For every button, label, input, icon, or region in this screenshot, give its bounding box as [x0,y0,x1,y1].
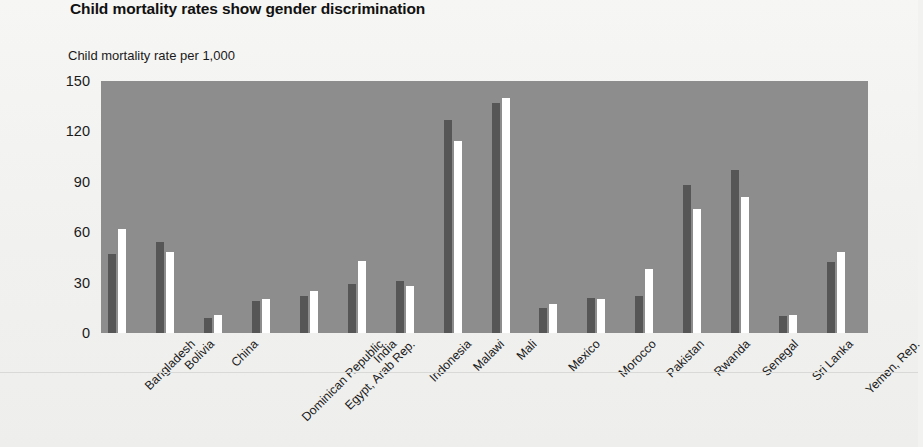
bar-series-layer [101,81,868,333]
bar-group[interactable] [437,81,485,333]
bar-female[interactable] [789,315,797,333]
bar-group[interactable] [389,81,437,333]
bar-female[interactable] [406,286,414,333]
bar-male[interactable] [779,316,787,333]
bar-female[interactable] [118,229,126,333]
bar-female[interactable] [597,299,605,333]
bar-male[interactable] [635,296,643,333]
bar-male[interactable] [827,262,835,333]
bar-male[interactable] [252,301,260,333]
bar-male[interactable] [492,103,500,333]
bar-group[interactable] [485,81,533,333]
bar-female[interactable] [645,269,653,333]
bar-male[interactable] [539,308,547,333]
bar-group[interactable] [580,81,628,333]
x-axis-tick-label: Indonesia [426,337,474,385]
bar-group[interactable] [628,81,676,333]
y-axis-tick-label: 0 [82,325,90,341]
x-axis-tick-label: Mexico [566,337,603,374]
bar-female[interactable] [310,291,318,333]
page-rule [0,372,918,373]
bar-male[interactable] [396,281,404,333]
bar-group[interactable] [676,81,724,333]
bar-female[interactable] [262,299,270,333]
bar-female[interactable] [166,252,174,333]
x-axis-tick-label: Mali [513,337,539,363]
bar-male[interactable] [156,242,164,333]
bar-group[interactable] [149,81,197,333]
bar-female[interactable] [358,261,366,333]
x-axis: BangladeshBoliviaChinaDominican Republic… [101,333,868,443]
y-axis-tick-label: 150 [66,73,90,89]
y-axis-tick-label: 120 [66,123,90,139]
bar-group[interactable] [197,81,245,333]
bar-group[interactable] [293,81,341,333]
bar-group[interactable] [245,81,293,333]
bar-male[interactable] [300,296,308,333]
x-axis-tick-label: China [228,337,261,370]
plot-region [101,81,868,333]
y-axis-tick-label: 60 [74,224,90,240]
bar-female[interactable] [741,197,749,333]
bar-female[interactable] [549,304,557,333]
bar-male[interactable] [731,170,739,333]
y-axis: 0306090120150 [0,81,96,333]
bar-male[interactable] [204,318,212,333]
bar-female[interactable] [837,252,845,333]
bar-male[interactable] [444,120,452,333]
y-axis-tick-label: 30 [74,275,90,291]
x-axis-tick-label: Morocco [616,337,659,380]
bar-group[interactable] [101,81,149,333]
y-axis-caption: Child mortality rate per 1,000 [68,48,235,63]
bar-group[interactable] [532,81,580,333]
bar-male[interactable] [587,298,595,333]
bar-group[interactable] [724,81,772,333]
bar-female[interactable] [454,141,462,333]
page-title: Child mortality rates show gender discri… [70,0,425,18]
bar-female[interactable] [502,98,510,333]
x-axis-tick-label: Malawi [470,337,507,374]
bar-male[interactable] [683,185,691,333]
bar-group[interactable] [820,81,868,333]
y-axis-tick-label: 90 [74,174,90,190]
bar-male[interactable] [348,284,356,333]
x-axis-tick-label: Sri Lanka [809,337,856,384]
bar-group[interactable] [772,81,820,333]
bar-female[interactable] [693,209,701,333]
bar-female[interactable] [214,315,222,333]
bar-group[interactable] [341,81,389,333]
x-axis-tick-label: Pakistan [664,337,707,380]
bar-male[interactable] [108,254,116,333]
